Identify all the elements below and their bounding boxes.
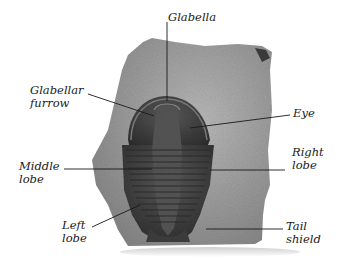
label-tail-shield: Tail shield — [286, 220, 321, 245]
label-glabellar-furrow: Glabellar furrow — [30, 84, 84, 109]
label-left-lobe: Left lobe — [62, 219, 87, 244]
rock-shadow — [120, 247, 300, 257]
label-glabella: Glabella — [168, 11, 216, 24]
label-eye: Eye — [293, 107, 315, 120]
label-middle-lobe: Middle lobe — [19, 160, 60, 185]
trilobite-diagram: Glabella Glabellar furrow Eye Middle lob… — [0, 0, 343, 260]
label-right-lobe: Right lobe — [292, 146, 324, 171]
